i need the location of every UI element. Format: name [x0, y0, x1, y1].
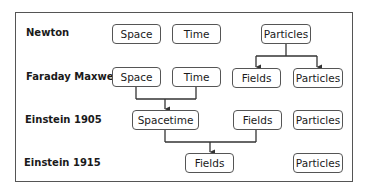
node-fm-fields: Fields [232, 68, 281, 88]
node-e1905-spacetime: Spacetime [132, 110, 199, 130]
node-fm-time: Time [172, 67, 221, 87]
node-newton-particles: Particles [261, 24, 311, 44]
node-e1905-particles: Particles [293, 110, 343, 130]
row-label-faraday-maxwell: Faraday Maxwell [26, 71, 120, 83]
node-newton-space: Space [112, 24, 161, 44]
row-label-newton: Newton [26, 27, 69, 39]
row-label-einstein-1915: Einstein 1915 [24, 157, 101, 169]
node-newton-time: Time [172, 24, 221, 44]
node-e1915-fields: Fields [185, 153, 234, 173]
node-e1905-fields: Fields [233, 110, 282, 130]
node-e1915-particles: Particles [293, 153, 343, 173]
node-fm-particles: Particles [293, 68, 343, 88]
row-label-einstein-1905: Einstein 1905 [25, 114, 102, 126]
node-fm-space: Space [112, 67, 161, 87]
